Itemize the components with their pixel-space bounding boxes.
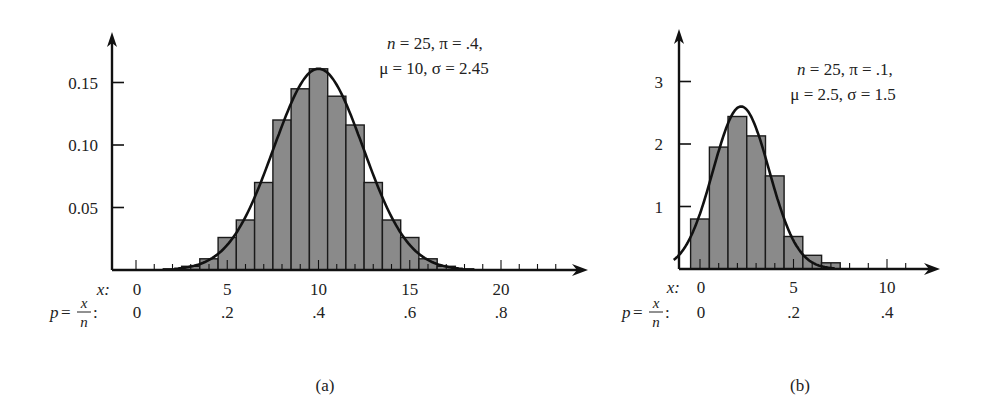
p-row-label: p = x n : [49, 295, 98, 330]
histogram-bar [709, 147, 728, 269]
svg-text:0: 0 [133, 280, 142, 299]
svg-text:10: 10 [879, 278, 896, 297]
svg-text:.4: .4 [881, 303, 894, 322]
histogram-bars [163, 69, 473, 270]
svg-text:1: 1 [655, 198, 664, 217]
histogram-bar [747, 136, 766, 269]
svg-text:0: 0 [697, 278, 706, 297]
svg-text:15: 15 [401, 280, 418, 299]
svg-text:.4: .4 [312, 303, 325, 322]
svg-text:0.05: 0.05 [68, 199, 98, 218]
histogram-bar [291, 89, 309, 270]
svg-text:p: p [621, 303, 631, 322]
svg-text:3: 3 [655, 73, 664, 92]
annotation-line-2: μ = 2.5, σ = 1.5 [790, 85, 895, 104]
svg-text:.2: .2 [787, 303, 800, 322]
x-row-label: x: [666, 278, 680, 297]
svg-text::: : [93, 303, 98, 322]
figure: 0.050.100.15 05101520 0.2.4.6.8 n = 25, … [0, 0, 984, 401]
histogram-bar [309, 69, 327, 270]
svg-text:.2: .2 [221, 303, 234, 322]
svg-text:.6: .6 [403, 303, 416, 322]
svg-text:0: 0 [697, 303, 706, 322]
svg-text:5: 5 [223, 280, 232, 299]
p-tick-labels: 0.2.4 [697, 303, 894, 322]
panel-b-chart: 123 0510 0.2.4 n = 25, π = .1, μ = 2.5, … [621, 29, 940, 395]
panel-caption: (b) [790, 376, 810, 395]
svg-text:x: x [652, 295, 660, 311]
annotation-line-1: n = 25, π = .1, [797, 60, 893, 79]
svg-text:x: x [80, 295, 88, 311]
annotation-line-1: n = 25, π = .4, [387, 34, 483, 53]
panel-caption: (a) [316, 376, 335, 395]
svg-text:=: = [61, 303, 71, 322]
svg-text:2: 2 [655, 135, 664, 154]
x-tick-labels: 0510 [697, 278, 896, 297]
panel-a-chart: 0.050.100.15 05101520 0.2.4.6.8 n = 25, … [49, 32, 588, 395]
x-row-label: x: [96, 280, 110, 299]
histogram-bar [364, 183, 382, 271]
histogram-bar [255, 183, 273, 271]
svg-text:n: n [80, 314, 88, 330]
p-tick-labels: 0.2.4.6.8 [133, 303, 508, 322]
svg-text::: : [665, 303, 670, 322]
p-row-label: p = x n : [621, 295, 670, 330]
svg-text:0.15: 0.15 [68, 74, 98, 93]
y-tick-labels: 123 [655, 73, 664, 217]
y-tick-labels: 0.050.100.15 [68, 74, 98, 218]
histogram-bar [328, 96, 346, 270]
x-tick-labels: 05101520 [133, 280, 510, 299]
svg-text:0.10: 0.10 [68, 136, 98, 155]
svg-text:10: 10 [310, 280, 327, 299]
svg-text:.8: .8 [495, 303, 508, 322]
svg-text:5: 5 [789, 278, 798, 297]
svg-text:p: p [49, 303, 59, 322]
annotation-line-2: μ = 10, σ = 2.45 [379, 59, 489, 78]
svg-text:20: 20 [493, 280, 510, 299]
svg-text:n: n [652, 314, 660, 330]
histogram-bars [691, 117, 841, 270]
histogram-bar [728, 117, 747, 270]
svg-text:=: = [633, 303, 643, 322]
svg-text:0: 0 [133, 303, 142, 322]
